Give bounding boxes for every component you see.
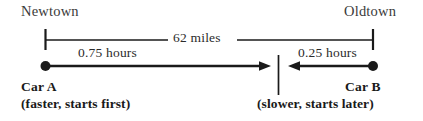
label-car-b-description: (slower, starts later) — [257, 97, 374, 111]
car-b-travel-arrow-head — [288, 61, 300, 71]
label-car-a-description: (faster, starts first) — [21, 97, 130, 111]
label-total-distance: 62 miles — [173, 31, 221, 45]
label-oldtown: Oldtown — [344, 4, 396, 19]
car-a-travel-arrow-head — [259, 61, 271, 71]
label-car-a-name: Car A — [21, 80, 57, 94]
label-car-a-time: 0.75 hours — [78, 46, 137, 60]
label-car-b-time: 0.25 hours — [298, 46, 357, 60]
label-newtown: Newtown — [21, 4, 79, 19]
distance-rate-time-diagram: Newtown Oldtown 62 miles 0.75 hours 0.25… — [0, 0, 423, 121]
label-car-b-name: Car B — [345, 80, 381, 94]
